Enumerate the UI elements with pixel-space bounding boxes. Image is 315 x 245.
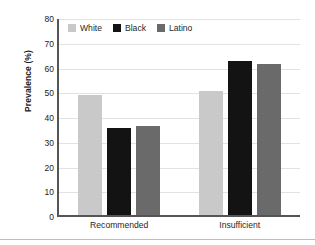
legend-label: Latino [169, 23, 192, 33]
bar-groups: RecommendedInsufficient [59, 19, 300, 215]
y-axis-tick-label: 40 [45, 113, 54, 123]
legend-label: Black [125, 23, 146, 33]
y-axis-tick-label: 10 [45, 187, 54, 197]
bar-white-recommended [78, 95, 102, 215]
legend-swatch-icon [68, 24, 76, 32]
bar-black-recommended [107, 128, 131, 215]
x-axis-tick-label: Insufficient [219, 220, 260, 230]
bar-group: Insufficient [180, 19, 301, 215]
y-axis-tick-label: 70 [45, 39, 54, 49]
y-axis-tick-label: 20 [45, 163, 54, 173]
y-axis-tick-label: 30 [45, 138, 54, 148]
bar-black-insufficient [228, 61, 252, 215]
y-axis-tick-label: 80 [45, 14, 54, 24]
legend-item-black[interactable]: Black [113, 23, 146, 33]
legend-item-white[interactable]: White [68, 23, 102, 33]
footer-divider [0, 239, 315, 240]
y-axis-tick-label: 60 [45, 64, 54, 74]
bar-latino-insufficient [257, 64, 281, 215]
bar-latino-recommended [136, 126, 160, 215]
bar-white-insufficient [199, 91, 223, 215]
y-axis-label: Prevalence (%) [23, 11, 33, 151]
legend-item-latino[interactable]: Latino [157, 23, 192, 33]
plot-area: 01020304050607080 RecommendedInsufficien… [57, 19, 300, 217]
legend-swatch-icon [157, 24, 165, 32]
chart-legend: WhiteBlackLatino [68, 23, 192, 33]
legend-label: White [80, 23, 102, 33]
y-axis-tick-label: 50 [45, 88, 54, 98]
x-axis-tick-label: Recommended [90, 220, 148, 230]
bar-group: Recommended [59, 19, 180, 215]
legend-swatch-icon [113, 24, 121, 32]
y-axis-tick-label: 0 [49, 212, 54, 222]
chart-figure: Prevalence (%) 01020304050607080 Recomme… [0, 0, 315, 245]
